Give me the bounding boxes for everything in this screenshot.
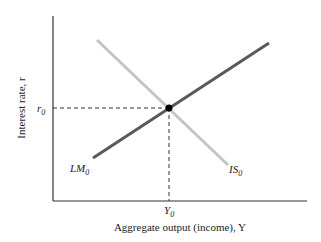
x-axis-title: Aggregate output (income), Y bbox=[114, 221, 246, 234]
r0-label: r0 bbox=[37, 102, 45, 117]
y0-label: Y0 bbox=[164, 204, 174, 219]
equilibrium-point bbox=[166, 105, 173, 112]
y-axis-title: Interest rate, r bbox=[15, 77, 27, 139]
is-lm-diagram: r0 Y0 LM0 IS0 Interest rate, r Aggregate… bbox=[0, 0, 321, 242]
lm-label: LM0 bbox=[69, 162, 89, 177]
is-label: IS0 bbox=[228, 163, 242, 178]
is-curve bbox=[97, 40, 228, 165]
